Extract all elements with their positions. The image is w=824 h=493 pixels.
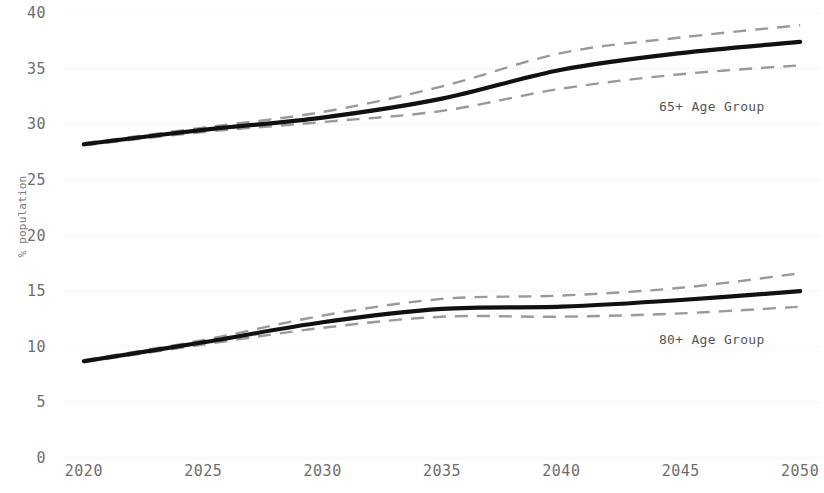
x-axis-tick: 2045: [646, 462, 716, 480]
y-axis-tick: 10: [0, 338, 46, 356]
y-axis-tick: 20: [0, 227, 46, 245]
x-axis-tick: 2035: [407, 462, 477, 480]
x-axis-tick: 2025: [168, 462, 238, 480]
series-line: [84, 42, 800, 144]
y-axis-tick: 25: [0, 171, 46, 189]
series-line: [84, 25, 800, 143]
y-axis-tick: 30: [0, 115, 46, 133]
series-annotation-label: 80+ Age Group: [659, 331, 765, 346]
x-axis-tick: 2030: [288, 462, 358, 480]
y-axis-tick: 35: [0, 60, 46, 78]
y-axis-tick: 15: [0, 282, 46, 300]
x-axis-tick: 2020: [49, 462, 119, 480]
y-axis-tick: 5: [0, 393, 46, 411]
chart-plot-area: [0, 0, 824, 493]
y-axis-tick: 40: [0, 4, 46, 22]
x-axis-tick: 2050: [765, 462, 824, 480]
x-axis-tick: 2040: [526, 462, 596, 480]
y-axis-tick: 0: [0, 449, 46, 467]
chart-container: % population 0510152025303540 2020202520…: [0, 0, 824, 493]
series-line: [84, 291, 800, 361]
series-annotation-label: 65+ Age Group: [659, 99, 765, 114]
